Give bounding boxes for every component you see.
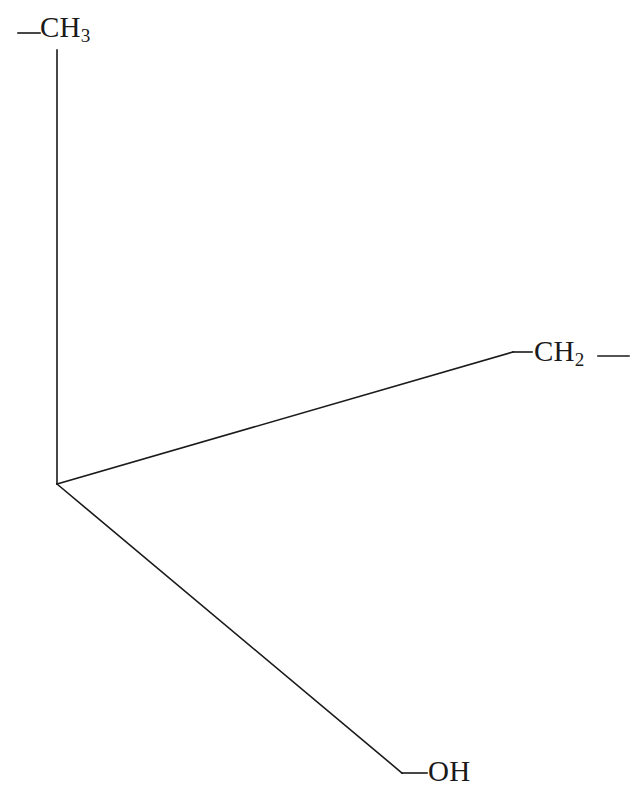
- atom-label-oh-element: OH: [428, 755, 470, 787]
- atom-label-ch2: CH2: [534, 337, 584, 366]
- bond-layer: [0, 0, 639, 803]
- atom-label-ch2-subscript: 2: [575, 349, 585, 370]
- bond-center-to-oh: [57, 484, 402, 773]
- chemical-structure-diagram: CH3 CH2 OH: [0, 0, 639, 803]
- atom-label-ch2-element: CH: [534, 335, 575, 367]
- atom-label-ch3-element: CH: [40, 11, 81, 43]
- atom-label-ch3-subscript: 3: [81, 25, 91, 46]
- bond-center-to-ch2: [57, 352, 513, 484]
- atom-label-ch3: CH3: [40, 13, 90, 42]
- atom-label-oh: OH: [428, 757, 470, 786]
